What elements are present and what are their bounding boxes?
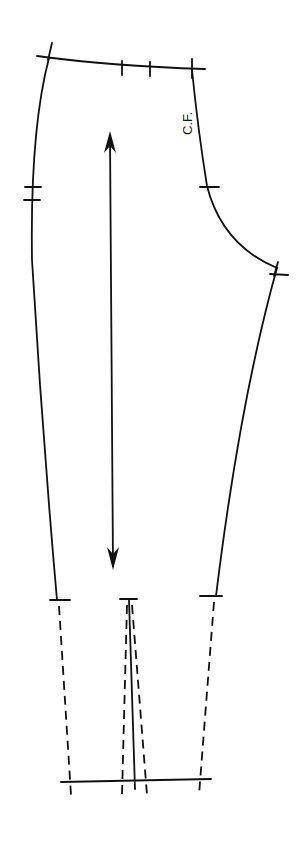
dashed-center-left [122, 605, 127, 795]
waistline [37, 56, 205, 69]
grainline [110, 136, 113, 566]
center-front-label: C.F. [180, 112, 195, 135]
pattern-drawing: C.F. [0, 0, 307, 844]
hem-line [61, 779, 211, 782]
crotch-notch [270, 262, 288, 276]
inseam [216, 268, 277, 596]
center-front-seam [192, 70, 277, 268]
dashed-inseam-extension [199, 602, 214, 795]
side-seam [32, 58, 57, 600]
dashed-side-extension [59, 606, 71, 795]
